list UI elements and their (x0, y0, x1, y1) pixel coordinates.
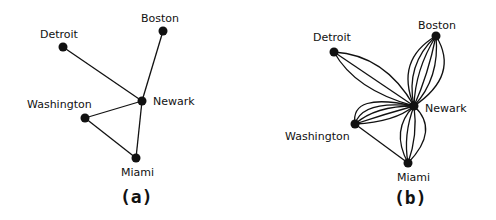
node-detroit (59, 43, 68, 52)
bundle-washington-newark (355, 102, 414, 124)
label-detroit-b: Detroit (313, 31, 352, 44)
network-diagram: Detroit Boston Newark Washington Miami (… (0, 0, 496, 220)
node-boston (159, 27, 168, 36)
bundle-boston-newark (408, 36, 444, 106)
label-washington-b: Washington (285, 130, 350, 143)
node-miami (132, 154, 141, 163)
edge-washington-newark (85, 101, 142, 118)
panel-a: Detroit Boston Newark Washington Miami (… (27, 12, 195, 207)
node-detroit-b (330, 48, 339, 57)
panel-b: Detroit Boston Newark Washington Miami (… (285, 19, 467, 208)
node-boston-b (432, 32, 441, 41)
edge-detroit-newark (63, 47, 142, 101)
label-boston-b: Boston (418, 19, 456, 32)
label-newark-b: Newark (425, 102, 467, 115)
label-newark: Newark (153, 95, 195, 108)
edge-boston-newark (142, 31, 163, 101)
label-miami-b: Miami (397, 171, 430, 184)
node-miami-b (404, 159, 413, 168)
node-washington (81, 114, 90, 123)
label-detroit: Detroit (40, 28, 79, 41)
node-newark (138, 97, 147, 106)
node-washington-b (351, 120, 360, 129)
caption-b: (b) (394, 187, 427, 208)
bundle-miami-newark (400, 106, 425, 163)
node-newark-b (410, 102, 419, 111)
caption-a: (a) (120, 186, 153, 207)
label-washington: Washington (27, 98, 92, 111)
edge-miami-newark (136, 101, 142, 158)
edge-washington-miami-b (355, 124, 408, 163)
edge-washington-miami (85, 118, 136, 158)
bundle-detroit-newark (334, 52, 414, 106)
label-boston: Boston (141, 12, 179, 25)
label-miami: Miami (121, 166, 154, 179)
